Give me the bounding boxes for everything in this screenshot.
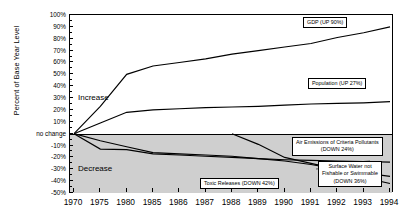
x-tick	[310, 188, 311, 192]
x-tick-label: 1980	[116, 197, 135, 207]
x-tick	[73, 188, 74, 192]
callout-air-emissions: Air Emissions of Criteria Pollutants (DO…	[292, 137, 383, 156]
x-tick-label: 1987	[195, 197, 214, 207]
x-tick	[99, 188, 100, 192]
y-tick	[69, 26, 73, 27]
y-tick-minor	[69, 67, 72, 68]
figure-caption-clipped	[0, 214, 406, 218]
y-tick	[69, 109, 73, 110]
y-tick-label: 90%	[53, 22, 66, 29]
y-tick-label: 80%	[53, 34, 66, 41]
y-tick	[69, 180, 73, 181]
y-tick	[69, 156, 73, 157]
x-tick-label: 1985	[143, 197, 162, 207]
series-line-population	[74, 102, 390, 134]
y-tick	[69, 121, 73, 122]
x-tick	[257, 188, 258, 192]
x-tick-label: 1993	[353, 197, 372, 207]
y-tick-minor	[69, 91, 72, 92]
x-tick	[205, 188, 206, 192]
x-tick	[363, 188, 364, 192]
y-tick-minor	[69, 20, 72, 21]
y-tick-minor	[69, 44, 72, 45]
callout-water-line3: (DOWN 36%)	[334, 178, 367, 184]
callout-air-line1: Air Emissions of Criteria Pollutants	[296, 139, 379, 145]
x-tick-label: 1990	[274, 197, 293, 207]
y-tick-label: -30%	[51, 165, 66, 172]
y-tick-minor	[69, 174, 72, 175]
y-tick	[69, 61, 73, 62]
y-tick-label: 20%	[53, 105, 66, 112]
x-tick-label: 1986	[169, 197, 188, 207]
y-tick	[69, 97, 73, 98]
y-tick-label: -10%	[51, 141, 66, 148]
x-tick	[152, 188, 153, 192]
y-axis-title: Percent of Base Year Level	[12, 1, 21, 141]
y-tick-minor	[69, 32, 72, 33]
y-tick	[69, 73, 73, 74]
callout-gdp-label: GDP (UP 90%)	[307, 19, 343, 25]
callout-population: Population (UP 27%)	[308, 78, 366, 89]
callout-gdp: GDP (UP 90%)	[303, 17, 347, 28]
y-tick	[69, 192, 73, 193]
y-tick-minor	[69, 56, 72, 57]
y-tick-label: 100%	[50, 11, 66, 18]
x-tick-label: 1970	[64, 197, 83, 207]
callout-air-line2: (DOWN 24%)	[321, 146, 354, 152]
y-tick-label: 60%	[53, 58, 66, 65]
x-tick-label: 1994	[380, 197, 399, 207]
y-tick-label: 50%	[53, 70, 66, 77]
callout-toxic-label: Toxic Releases (DOWN 42%)	[204, 180, 275, 186]
y-tick-minor	[69, 127, 72, 128]
y-tick-label: -40%	[51, 177, 66, 184]
plot-area: Increase Decrease GDP (UP 90%) Populatio…	[69, 14, 393, 192]
y-tick-label: -20%	[51, 153, 66, 160]
y-tick-minor	[69, 186, 72, 187]
y-tick-label: no change	[36, 129, 66, 136]
x-tick	[178, 188, 179, 192]
y-tick-minor	[69, 103, 72, 104]
y-tick-label: 40%	[53, 82, 66, 89]
y-tick-minor	[69, 139, 72, 140]
y-tick-minor	[69, 79, 72, 80]
callout-toxic-releases: Toxic Releases (DOWN 42%)	[200, 178, 279, 189]
y-tick	[69, 14, 73, 15]
x-tick	[126, 188, 127, 192]
y-tick-minor	[69, 150, 72, 151]
y-tick-label: 30%	[53, 94, 66, 101]
x-tick	[336, 188, 337, 192]
x-tick	[389, 188, 390, 192]
x-tick-label: 1989	[248, 197, 267, 207]
x-tick-label: 1988	[222, 197, 241, 207]
y-tick-label: 10%	[53, 117, 66, 124]
x-tick	[284, 188, 285, 192]
y-tick	[69, 133, 73, 134]
callout-water-line1: Surface Water not	[328, 163, 371, 169]
callout-surface-water: Surface Water not Fishable or Swimmable …	[318, 161, 382, 187]
x-tick-label: 1991	[301, 197, 320, 207]
callout-population-label: Population (UP 27%)	[312, 80, 362, 86]
callout-water-line2: Fishable or Swimmable	[322, 170, 378, 176]
y-tick-label: 70%	[53, 46, 66, 53]
y-tick-minor	[69, 115, 72, 116]
y-tick	[69, 145, 73, 146]
x-tick-label: 1975	[90, 197, 109, 207]
y-tick	[69, 50, 73, 51]
y-tick-label: -50%	[51, 189, 66, 196]
y-tick	[69, 85, 73, 86]
chart-figure: Percent of Base Year Level Increase Decr…	[0, 0, 406, 218]
y-tick	[69, 38, 73, 39]
y-tick-minor	[69, 162, 72, 163]
x-tick	[231, 188, 232, 192]
x-tick-label: 1992	[327, 197, 346, 207]
y-tick	[69, 168, 73, 169]
